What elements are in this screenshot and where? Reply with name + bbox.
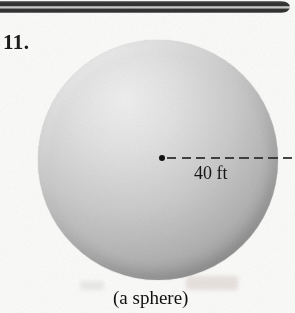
figure-caption: (a sphere) <box>113 287 188 309</box>
divider-rule <box>0 1 290 13</box>
scanned-textbook-figure: 11. 40 ft (a sphere) <box>0 0 295 313</box>
sphere-shape <box>38 40 278 280</box>
radius-dashed-line <box>167 157 295 159</box>
sphere-center-dot <box>159 155 165 161</box>
print-bleed-artifact <box>186 276 238 290</box>
radius-label: 40 ft <box>194 163 228 184</box>
print-bleed-artifact <box>80 281 104 290</box>
problem-number: 11. <box>3 30 30 55</box>
